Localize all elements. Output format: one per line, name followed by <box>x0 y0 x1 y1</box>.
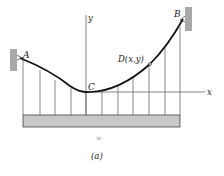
deck <box>23 115 180 127</box>
label-y-axis: y <box>87 13 93 23</box>
figure-caption: (a) <box>91 151 103 161</box>
label-load-w: w <box>96 134 102 142</box>
cable-curve <box>20 19 183 92</box>
wall-left <box>10 49 17 71</box>
label-x-axis: x <box>207 87 212 97</box>
label-c: C <box>88 82 95 92</box>
label-d: D(x,y) <box>117 54 144 64</box>
wall-right <box>185 7 192 31</box>
suspension-cable-diagram: A B C D(x,y) y x w (a) <box>0 0 224 176</box>
point-d-marker <box>149 63 152 66</box>
label-b: B <box>173 9 181 19</box>
label-a: A <box>22 50 30 60</box>
